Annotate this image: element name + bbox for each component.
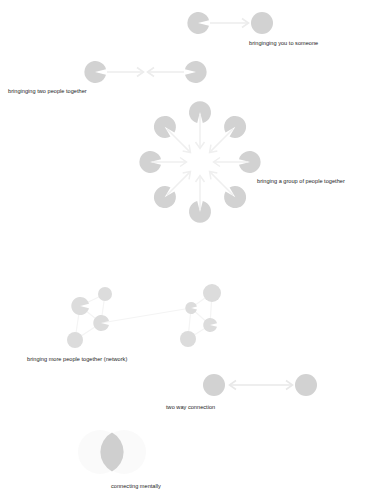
circle-node [180,331,196,347]
circle-node [98,287,112,301]
arrow-inward-left [107,68,144,77]
caption-one-to-one: bringinging you to someone [249,39,318,47]
diagram-canvas [0,0,366,491]
radial-arrows [153,115,247,209]
diagram-connecting-mentally [78,430,146,474]
circle-node [67,332,83,348]
circle-node-left [203,374,225,396]
diagram-two-people-together [84,61,206,83]
caption-two-way: two way connection [166,403,215,411]
caption-network: bringing more people together (network) [27,355,127,363]
arrow-double-headed [230,381,293,390]
pacman-node-left [84,61,106,83]
caption-two-people: bringinging two people together [8,87,87,95]
diagram-network [67,284,221,348]
arrow-inward-right [148,68,185,77]
arrow-right [210,19,249,28]
diagram-group-radial [139,101,260,222]
caption-connecting-mentally: connecting mentally [111,482,161,490]
pacman-node-right [185,61,207,83]
pacman-node [187,12,209,34]
circle-node-right [295,374,317,396]
circle-node [251,12,273,34]
caption-group: bringing a group of people together [257,177,345,185]
circle-node [203,284,221,302]
diagram-two-way-connection [203,374,317,396]
diagram-one-to-one [187,12,273,34]
